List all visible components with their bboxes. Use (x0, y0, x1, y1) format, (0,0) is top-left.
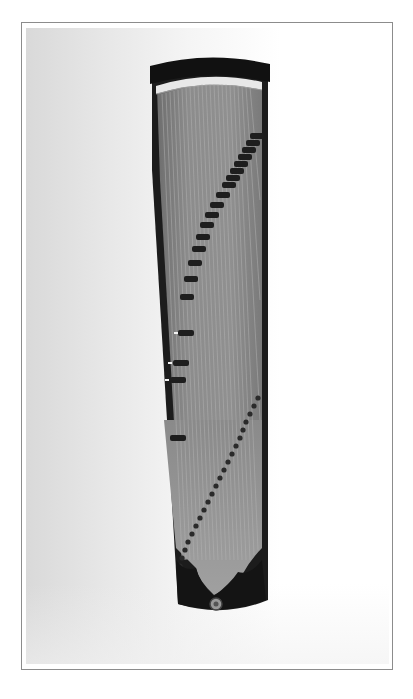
guzheng-illustration (0, 0, 413, 699)
